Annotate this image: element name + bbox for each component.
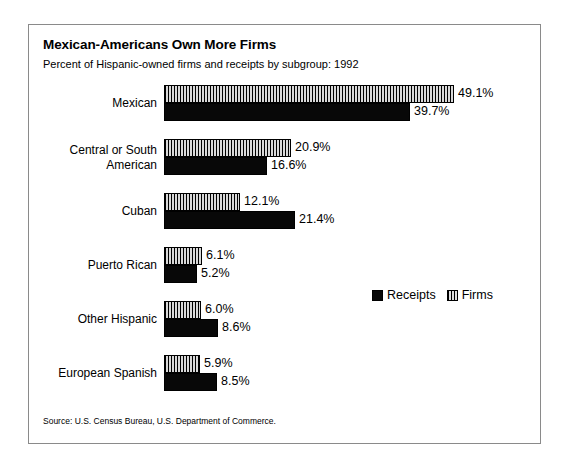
bar-value-firms: 6.0%	[201, 302, 234, 316]
legend-swatch-firms-icon	[447, 290, 458, 301]
bar-receipts[interactable]	[164, 211, 295, 229]
category-label: Cuban	[29, 204, 157, 219]
chart-panel: Mexican-Americans Own More Firms Percent…	[28, 24, 541, 444]
bar-receipts[interactable]	[164, 103, 410, 121]
bar-value-firms: 12.1%	[240, 194, 279, 208]
bar-firms[interactable]	[164, 355, 200, 373]
bar-group: European Spanish 5.9% 8.5%	[29, 355, 540, 393]
bar-pair: 20.9% 16.6%	[164, 139, 540, 177]
bar-value-firms: 5.9%	[200, 356, 233, 370]
chart-subtitle: Percent of Hispanic-owned firms and rece…	[43, 58, 359, 70]
legend-label-firms: Firms	[462, 288, 493, 302]
bar-pair: 6.0% 8.6%	[164, 301, 540, 339]
category-label: Other Hispanic	[29, 312, 157, 327]
bar-value-firms: 6.1%	[202, 248, 235, 262]
bar-value-firms: 20.9%	[291, 140, 330, 154]
bar-group: Central or South American 20.9% 16.6%	[29, 139, 540, 177]
legend-swatch-receipts-icon	[372, 290, 383, 301]
bar-group: Mexican 49.1% 39.7%	[29, 85, 540, 123]
bar-value-receipts: 8.5%	[217, 374, 250, 388]
plot-area: Mexican 49.1% 39.7% Central or South Ame…	[29, 85, 540, 400]
bar-firms[interactable]	[164, 247, 202, 265]
bar-value-receipts: 8.6%	[218, 320, 251, 334]
bar-value-firms: 49.1%	[454, 86, 493, 100]
bar-value-receipts: 39.7%	[410, 104, 449, 118]
category-label: Mexican	[29, 96, 157, 111]
bar-receipts[interactable]	[164, 373, 217, 391]
legend-item-firms[interactable]: Firms	[447, 288, 493, 302]
bar-receipts[interactable]	[164, 265, 197, 283]
bar-firms[interactable]	[164, 193, 240, 211]
chart-legend: Receipts Firms	[372, 288, 504, 302]
bar-firms[interactable]	[164, 301, 201, 319]
category-label: Central or South American	[29, 143, 157, 173]
bar-group: Puerto Rican 6.1% 5.2%	[29, 247, 540, 285]
bar-receipts[interactable]	[164, 319, 218, 337]
bar-value-receipts: 5.2%	[197, 266, 230, 280]
source-note: Source: U.S. Census Bureau, U.S. Departm…	[43, 416, 276, 426]
bar-firms[interactable]	[164, 85, 454, 103]
bar-pair: 6.1% 5.2%	[164, 247, 540, 285]
bar-value-receipts: 21.4%	[295, 212, 334, 226]
bar-value-receipts: 16.6%	[267, 158, 306, 172]
bar-group: Other Hispanic 6.0% 8.6%	[29, 301, 540, 339]
chart-title: Mexican-Americans Own More Firms	[43, 37, 276, 52]
legend-item-receipts[interactable]: Receipts	[372, 288, 436, 302]
bar-pair: 49.1% 39.7%	[164, 85, 540, 123]
category-label: European Spanish	[29, 366, 157, 381]
category-label: Puerto Rican	[29, 258, 157, 273]
bar-pair: 12.1% 21.4%	[164, 193, 540, 231]
bar-receipts[interactable]	[164, 157, 267, 175]
bar-pair: 5.9% 8.5%	[164, 355, 540, 393]
legend-label-receipts: Receipts	[387, 288, 436, 302]
bar-firms[interactable]	[164, 139, 291, 157]
bar-group: Cuban 12.1% 21.4%	[29, 193, 540, 231]
